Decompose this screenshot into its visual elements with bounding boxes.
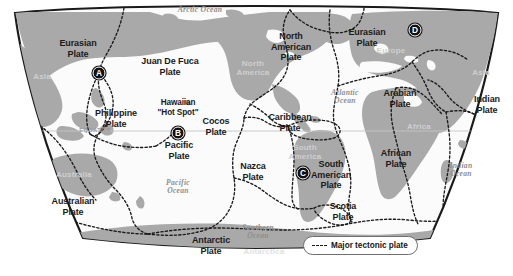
map-legend: Major tectonic plate [303, 236, 418, 255]
map-marker-a[interactable]: A [93, 67, 106, 80]
dashed-line-swatch-icon [312, 245, 327, 246]
map-marker-d[interactable]: D [409, 24, 422, 37]
world-map-graphic [0, 0, 513, 276]
map-marker-b[interactable]: B [172, 127, 185, 140]
legend-label: Major tectonic plate [331, 241, 408, 250]
tectonic-plate-map-figure: Arctic Ocean AtlanticOcean PacificOcean … [0, 0, 513, 276]
map-marker-c[interactable]: C [297, 167, 310, 180]
